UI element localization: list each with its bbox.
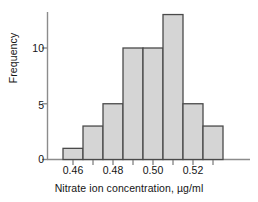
histogram-bar	[143, 48, 163, 160]
y-tick-label-5: 5	[18, 99, 44, 111]
y-axis-title: Frequency	[7, 18, 19, 98]
histogram-bar	[203, 126, 223, 159]
x-tick-label-052: 0.52	[173, 164, 213, 176]
histogram-bar	[103, 104, 123, 160]
x-tick-label-046: 0.46	[53, 164, 93, 176]
histogram-bars	[63, 15, 223, 160]
x-axis-title: Nitrate ion concentration, µg/ml	[0, 182, 258, 194]
histogram-bar	[63, 148, 83, 159]
histogram-figure: Frequency Nitrate ion concentration, µg/…	[0, 0, 258, 202]
y-tick-label-10: 10	[18, 42, 44, 54]
x-tick-label-050: 0.50	[133, 164, 173, 176]
histogram-bar	[123, 48, 143, 160]
histogram-bar	[183, 104, 203, 160]
histogram-bar	[83, 126, 103, 159]
x-tick-label-048: 0.48	[93, 164, 133, 176]
histogram-bar	[163, 15, 183, 160]
y-tick-label-0: 0	[18, 153, 44, 165]
